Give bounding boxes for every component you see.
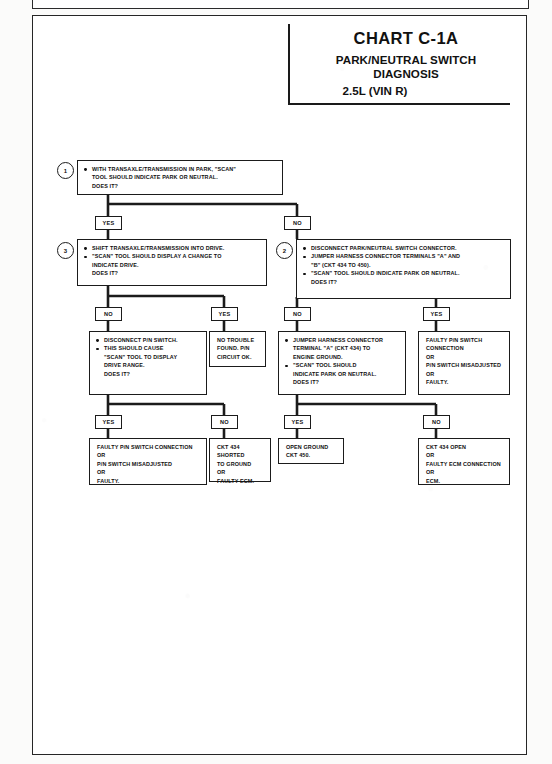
jumper-ground-line-6: DOES IT? (284, 378, 400, 386)
no-trouble-line-3: CIRCUIT OK. (215, 353, 260, 361)
faulty-pn-connection-right-box: FAULTY P/N SWITCH CONNECTION OR P/N SWIT… (418, 331, 510, 395)
step-3-box: SHIFT TRANSAXLE/TRANSMISSION INTO DRIVE.… (77, 239, 267, 286)
faulty-pn-connection-left-box: FAULTY P/N SWITCH CONNECTION OR P/N SWIT… (89, 438, 207, 485)
step-2-line-5: DOES IT? (302, 278, 505, 286)
step-3-line-2: "SCAN" TOOL SHOULD DISPLAY A CHANGE TO (83, 252, 261, 260)
branch-label-3-yes: YES (211, 307, 238, 321)
no-trouble-line-2: FOUND. P/N (215, 344, 260, 352)
ckt434-open-line-3: FAULTY ECM CONNECTION (424, 460, 504, 468)
branch-label-5-yes: YES (284, 415, 311, 429)
step-1-line-1: WITH TRANSAXLE/TRANSMISSION IN PARK, "SC… (83, 165, 277, 173)
ckt434-open-line-2: OR (424, 451, 504, 459)
flowchart: 1 WITH TRANSAXLE/TRANSMISSION IN PARK, "… (0, 0, 552, 764)
ckt434-open-box: CKT 434 OPEN OR FAULTY ECM CONNECTION OR… (418, 438, 510, 485)
branch-label-4-yes: YES (95, 415, 122, 429)
disconnect-pn-switch-box: DISCONNECT P/N SWITCH. THIS SHOULD CAUSE… (89, 331, 207, 395)
open-ground-line-2: CKT 450. (284, 451, 338, 459)
step-1-line-2: TOOL SHOULD INDICATE PARK OR NEUTRAL. (83, 173, 277, 181)
jumper-ground-line-5: INDICATE PARK OR NEUTRAL. (284, 370, 400, 378)
faulty-right-line-5: OR (424, 370, 504, 378)
step-1-box: WITH TRANSAXLE/TRANSMISSION IN PARK, "SC… (77, 160, 283, 195)
ckt434-open-line-5: ECM. (424, 477, 504, 485)
disconnect-line-2: THIS SHOULD CAUSE (95, 344, 201, 352)
branch-label-4-no: NO (211, 415, 238, 429)
step-1-line-3: DOES IT? (83, 182, 277, 190)
faulty-left-line-2: OR (95, 451, 201, 459)
step-number-3: 3 (57, 242, 74, 259)
ckt434-shorted-box: CKT 434 SHORTED TO GROUND OR FAULTY ECM. (209, 438, 271, 482)
faulty-right-line-2: CONNECTION (424, 344, 504, 352)
step-3-line-1: SHIFT TRANSAXLE/TRANSMISSION INTO DRIVE. (83, 244, 261, 252)
branch-label-3-no: NO (95, 307, 122, 321)
step-2-line-2: JUMPER HARNESS CONNECTOR TERMINALS "A" A… (302, 252, 505, 260)
step-number-2: 2 (276, 242, 293, 259)
step-2-box: DISCONNECT PARK/NEUTRAL SWITCH CONNECTOR… (296, 239, 511, 299)
step-2-line-4: "SCAN" TOOL SHOULD INDICATE PARK OR NEUT… (302, 269, 505, 277)
faulty-right-line-4: P/N SWITCH MISADJUSTED (424, 361, 504, 369)
jumper-ground-line-2: TERMINAL "A" (CKT 434) TO (284, 344, 400, 352)
faulty-left-line-5: FAULTY. (95, 477, 201, 485)
ckt434-shorted-line-1: CKT 434 SHORTED (215, 443, 265, 460)
branch-label-1-yes: YES (95, 216, 122, 230)
ckt434-open-line-1: CKT 434 OPEN (424, 443, 504, 451)
step-2-line-3: "B" (CKT 434 TO 450). (302, 261, 505, 269)
open-ground-box: OPEN GROUND CKT 450. (278, 438, 344, 464)
faulty-right-line-1: FAULTY P/N SWITCH (424, 336, 504, 344)
open-ground-line-1: OPEN GROUND (284, 443, 338, 451)
ckt434-shorted-line-4: FAULTY ECM. (215, 477, 265, 485)
ckt434-open-line-4: OR (424, 468, 504, 476)
no-trouble-line-1: NO TROUBLE (215, 336, 260, 344)
faulty-right-line-6: FAULTY. (424, 378, 504, 386)
branch-label-1-no: NO (284, 216, 311, 230)
step-2-line-1: DISCONNECT PARK/NEUTRAL SWITCH CONNECTOR… (302, 244, 505, 252)
faulty-right-line-3: OR (424, 353, 504, 361)
branch-label-2-yes: YES (423, 307, 450, 321)
step-3-line-3: INDICATE DRIVE. (83, 261, 261, 269)
jumper-ground-line-1: JUMPER HARNESS CONNECTOR (284, 336, 400, 344)
branch-label-2-no: NO (284, 307, 311, 321)
jumper-to-engine-ground-box: JUMPER HARNESS CONNECTOR TERMINAL "A" (C… (278, 331, 406, 395)
branch-label-5-no: NO (423, 415, 450, 429)
ckt434-shorted-line-3: OR (215, 468, 265, 476)
disconnect-line-5: DOES IT? (95, 370, 201, 378)
disconnect-line-4: DRIVE RANGE. (95, 361, 201, 369)
jumper-ground-line-4: "SCAN" TOOL SHOULD (284, 361, 400, 369)
disconnect-line-3: "SCAN" TOOL TO DISPLAY (95, 353, 201, 361)
step-3-line-4: DOES IT? (83, 269, 261, 277)
faulty-left-line-3: P/N SWITCH MISADJUSTED (95, 460, 201, 468)
faulty-left-line-1: FAULTY P/N SWITCH CONNECTION (95, 443, 201, 451)
step-number-1: 1 (57, 162, 74, 179)
disconnect-line-1: DISCONNECT P/N SWITCH. (95, 336, 201, 344)
jumper-ground-line-3: ENGINE GROUND. (284, 353, 400, 361)
no-trouble-found-box: NO TROUBLE FOUND. P/N CIRCUIT OK. (209, 331, 266, 367)
ckt434-shorted-line-2: TO GROUND (215, 460, 265, 468)
faulty-left-line-4: OR (95, 468, 201, 476)
